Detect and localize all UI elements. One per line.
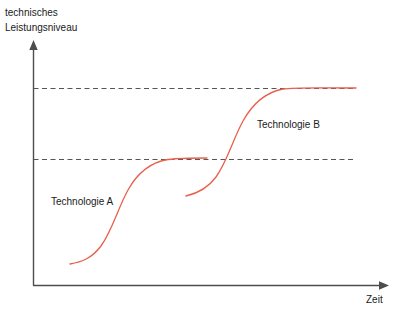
curve-technologie-a <box>70 158 207 264</box>
curve-technologie-b <box>186 88 356 196</box>
curve-b-annotation: Technologie B <box>257 119 320 130</box>
curve-a-annotation: Technologie A <box>51 196 114 207</box>
figure-canvas: technisches Leistungsniveau Technologie … <box>0 0 402 315</box>
y-axis-label-line2: Leistungsniveau <box>5 22 77 33</box>
x-axis-arrowhead <box>379 281 389 290</box>
s-curve-diagram: technisches Leistungsniveau Technologie … <box>0 0 402 315</box>
x-axis-label: Zeit <box>366 294 383 305</box>
y-axis-arrowhead <box>29 40 37 50</box>
y-axis-label-line1: technisches <box>5 7 58 18</box>
